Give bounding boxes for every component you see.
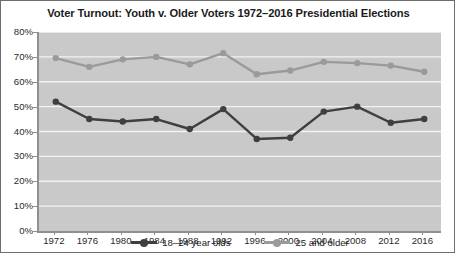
data-point <box>287 135 293 141</box>
y-axis-tick-label: 40% <box>3 126 33 137</box>
x-axis-tick-label: 2016 <box>402 235 442 246</box>
data-point <box>220 106 226 112</box>
data-point <box>187 61 193 67</box>
data-point <box>287 67 293 73</box>
y-axis-tick-label: 50% <box>3 101 33 112</box>
chart-container: Voter Turnout: Youth v. Older Voters 197… <box>0 0 455 253</box>
data-point <box>388 120 394 126</box>
chart-title: Voter Turnout: Youth v. Older Voters 197… <box>1 7 455 19</box>
data-point <box>120 56 126 62</box>
plot-svg <box>39 32 441 231</box>
data-point <box>153 116 159 122</box>
data-point <box>53 98 59 104</box>
data-point <box>254 136 260 142</box>
data-point <box>53 55 59 61</box>
data-point <box>421 69 427 75</box>
data-point <box>220 50 226 56</box>
y-axis-tick-label: 0% <box>3 225 33 236</box>
data-point <box>86 64 92 70</box>
data-point <box>86 116 92 122</box>
data-point <box>254 71 260 77</box>
y-axis-tick-label: 80% <box>3 26 33 37</box>
data-point <box>153 54 159 60</box>
data-point <box>187 126 193 132</box>
data-point <box>321 59 327 65</box>
data-point <box>321 108 327 114</box>
data-point <box>120 118 126 124</box>
data-point <box>388 62 394 68</box>
y-axis-tick-label: 70% <box>3 51 33 62</box>
plot-area: 18–24 year olds25 and older <box>37 32 441 233</box>
y-axis-tick-label: 30% <box>3 150 33 161</box>
data-point <box>421 116 427 122</box>
data-point <box>354 60 360 66</box>
y-axis-tick-label: 20% <box>3 175 33 186</box>
y-axis-tick-label: 10% <box>3 200 33 211</box>
data-point <box>354 103 360 109</box>
y-axis-tick-label: 60% <box>3 76 33 87</box>
